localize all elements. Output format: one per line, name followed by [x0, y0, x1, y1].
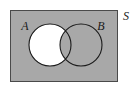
venn-diagram-figure: A B S	[0, 0, 138, 89]
set-label-b: B	[97, 19, 105, 33]
universal-set-label-s: S	[123, 9, 129, 23]
venn-diagram-canvas: A B S	[0, 0, 138, 89]
set-label-a: A	[20, 19, 29, 33]
